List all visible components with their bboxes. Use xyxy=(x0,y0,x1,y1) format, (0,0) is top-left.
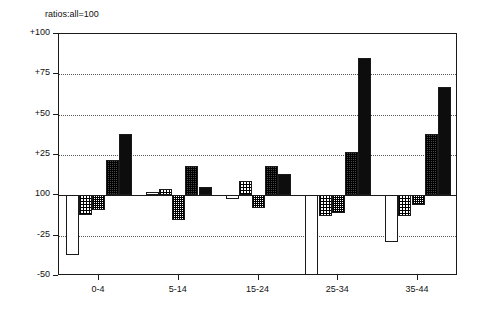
gridline xyxy=(59,74,456,75)
x-axis-tick-label: 0-4 xyxy=(91,284,104,294)
gridline xyxy=(59,115,456,116)
bar xyxy=(172,195,185,219)
x-axis-tick-mark xyxy=(417,275,418,280)
x-axis-tick-mark xyxy=(337,275,338,280)
bar xyxy=(425,134,438,195)
bar xyxy=(412,195,425,205)
bar xyxy=(66,195,79,255)
bar xyxy=(106,160,119,195)
bar xyxy=(79,195,92,214)
bar xyxy=(345,152,358,196)
bar xyxy=(278,174,291,195)
y-axis-tick-label: +75 xyxy=(16,67,50,77)
bar xyxy=(332,195,345,213)
bar xyxy=(438,87,451,195)
bar xyxy=(199,187,212,195)
bar xyxy=(358,58,371,195)
bar xyxy=(146,192,159,195)
x-axis-tick-label: 25-34 xyxy=(326,284,349,294)
y-axis-tick-label: +100 xyxy=(16,27,50,37)
bar xyxy=(265,166,278,195)
bar xyxy=(159,189,172,195)
bar xyxy=(305,195,318,275)
y-axis-tick-label: 100 xyxy=(16,188,50,198)
x-axis-tick-mark xyxy=(258,275,259,280)
plot-area xyxy=(58,33,457,275)
bar xyxy=(385,195,398,242)
bar-chart: ratios:all=100 +100+75+50+25100-25-50 0-… xyxy=(0,0,481,323)
y-axis-tick-label: -50 xyxy=(16,269,50,279)
bar xyxy=(119,134,132,195)
x-axis-tick-mark xyxy=(178,275,179,280)
bar xyxy=(92,195,105,210)
bar xyxy=(319,195,332,216)
bar xyxy=(226,195,239,198)
x-axis-tick-label: 15-24 xyxy=(246,284,269,294)
x-axis-tick-label: 5-14 xyxy=(169,284,187,294)
x-axis-tick-label: 35-44 xyxy=(406,284,429,294)
x-axis-tick-mark xyxy=(98,275,99,280)
y-axis-tick-label: +25 xyxy=(16,148,50,158)
bar xyxy=(398,195,411,216)
y-axis-tick-mark xyxy=(53,275,58,276)
bar xyxy=(239,181,252,196)
bar xyxy=(252,195,265,208)
y-axis-tick-label: +50 xyxy=(16,108,50,118)
bar xyxy=(185,166,198,195)
y-axis-tick-label: -25 xyxy=(16,229,50,239)
chart-title: ratios:all=100 xyxy=(45,9,99,19)
